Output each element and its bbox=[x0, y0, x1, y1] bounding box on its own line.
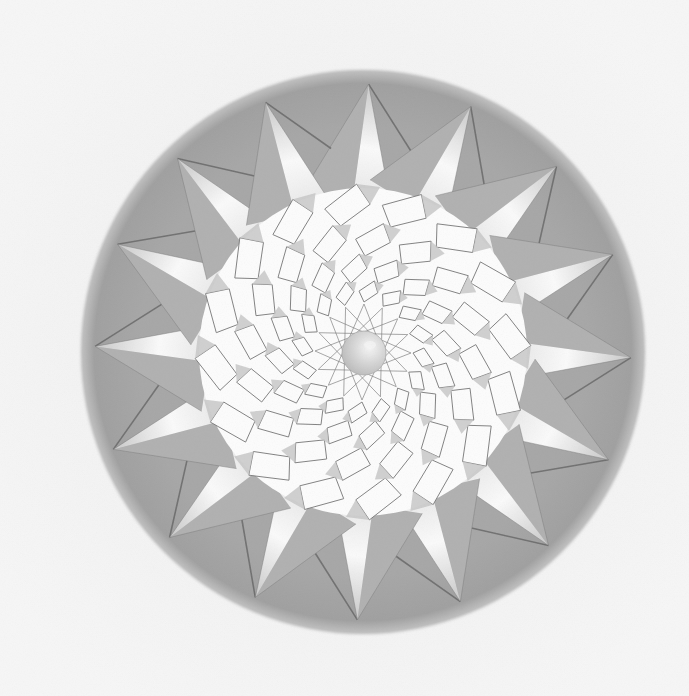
star-mandala-illustration bbox=[0, 0, 689, 696]
pencil-grain-texture bbox=[0, 0, 689, 696]
